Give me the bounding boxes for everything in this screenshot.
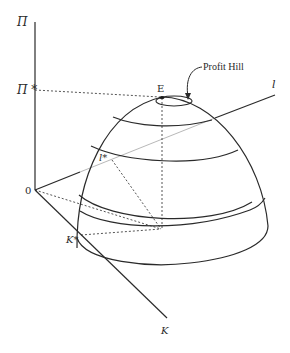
profit-hill-diagram: Π Π * 0 E Profit Hill l l* K* K <box>0 0 290 353</box>
k-star-dashed-line <box>81 229 161 235</box>
origin-label: 0 <box>25 185 31 196</box>
pi-star-dashed-line <box>35 90 160 97</box>
k-star-label: K* <box>65 234 78 245</box>
contour-ring-4 <box>80 198 265 226</box>
contour-ring-1 <box>113 117 212 126</box>
profit-hill-label: Profit Hill <box>203 61 244 72</box>
peak-point-e <box>159 96 164 99</box>
l-star-dashed-line <box>112 160 161 229</box>
pi-star-label: Π * <box>16 83 37 97</box>
peak-label-e: E <box>157 83 164 94</box>
l-axis-outer-left <box>35 172 80 190</box>
l-axis-inner <box>80 118 215 172</box>
origin-to-center-dashed-line <box>35 190 161 229</box>
annotation-arrow <box>187 67 202 97</box>
pi-axis-label: Π <box>16 15 28 29</box>
k-axis-label: K <box>160 325 169 336</box>
contour-ring-3 <box>79 195 252 219</box>
l-axis-outer-right <box>215 95 275 118</box>
l-axis-label: l <box>272 78 276 91</box>
l-star-label: l* <box>99 152 107 163</box>
